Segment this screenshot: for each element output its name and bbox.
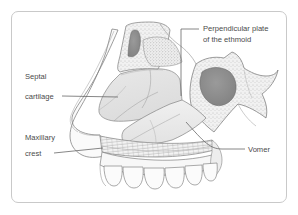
label-septal-cartilage-line2: cartilage xyxy=(25,92,54,101)
tooth xyxy=(165,167,184,188)
tooth xyxy=(185,165,202,185)
figure-panel: Perpendicular plate of the ethmoid Septa… xyxy=(0,0,298,215)
perpendicular-plate-ethmoid-structure xyxy=(143,37,182,66)
label-maxillary-crest-line2: crest xyxy=(25,149,42,158)
label-maxillary-crest-line1: Maxillary xyxy=(25,133,55,142)
label-septal-cartilage-line1: Septal xyxy=(25,72,47,81)
tooth xyxy=(203,163,217,181)
label-vomer: Vomer xyxy=(248,145,270,154)
label-perpendicular-plate-ethmoid-line1: Perpendicular plate xyxy=(203,24,268,33)
tooth xyxy=(123,167,143,188)
tooth xyxy=(144,168,164,189)
nasal-septum-illustration: Perpendicular plate of the ethmoid Septa… xyxy=(0,0,298,215)
nasal-bridge-frontal-bone xyxy=(118,22,196,72)
tooth xyxy=(104,166,122,186)
label-perpendicular-plate-ethmoid-line2: of the ethmoid xyxy=(203,35,251,44)
